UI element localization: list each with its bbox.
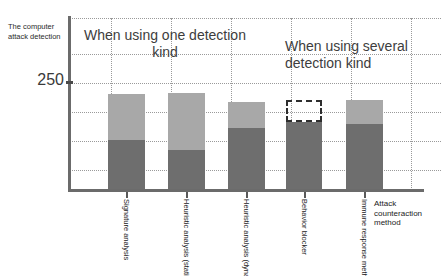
bar-immune-response-method — [346, 100, 383, 190]
x-axis-tick — [304, 192, 306, 198]
bar-segment-lower — [286, 122, 322, 190]
bar-behavior-blocker — [286, 100, 322, 190]
x-axis-label-heuristic-analysis-dynamic: Heuristic analysis (dynamic) — [242, 199, 251, 273]
y-axis-line — [68, 16, 71, 192]
bar-segment-lower — [168, 150, 205, 190]
annotation-one-detection-kind: When using one detection kind — [80, 27, 250, 61]
bar-chart-figure: The computer attack detection 250 When u… — [0, 0, 441, 276]
annotation-several-detection-kind: When using several detection kind — [285, 38, 435, 72]
x-axis-tick — [364, 192, 366, 198]
x-axis-label-signature-analysis: Signature analysis — [122, 199, 131, 269]
y-axis-tick-250 — [66, 81, 73, 84]
x-axis-label-immune-response-method: Immune response method — [360, 199, 369, 273]
x-axis-title: Attack counteraction method — [374, 199, 436, 228]
gridline-horizontal — [72, 83, 441, 84]
y-axis-tick-label-250: 250 — [20, 71, 64, 89]
bar-segment-lower — [228, 128, 265, 190]
bar-signature-analysis — [108, 94, 145, 190]
x-axis-tick — [186, 192, 188, 198]
bar-segment-upper-outlined — [286, 100, 322, 122]
y-axis-title: The computer attack detection — [8, 22, 68, 41]
gridline-horizontal — [72, 18, 441, 19]
bar-segment-upper — [168, 93, 205, 150]
bar-heuristic-analysis-statistical — [168, 93, 205, 190]
x-axis-tick — [126, 192, 128, 198]
x-axis-label-heuristic-analysis-statistical: Heuristic analysis (statistical) — [182, 199, 191, 273]
bar-segment-lower — [108, 140, 145, 190]
bar-segment-upper — [108, 94, 145, 140]
x-axis-label-behavior-blocker: Behavior blocker — [300, 199, 309, 269]
bar-segment-upper — [346, 100, 383, 124]
bar-segment-upper — [228, 102, 265, 128]
bar-segment-lower — [346, 124, 383, 190]
x-axis-tick — [246, 192, 248, 198]
bar-heuristic-analysis-dynamic — [228, 102, 265, 190]
